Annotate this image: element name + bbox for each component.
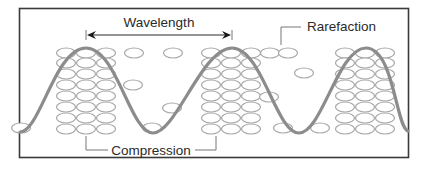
particle-ellipse	[222, 69, 241, 79]
scattered-particle-ellipse	[295, 68, 314, 78]
particle-ellipse	[376, 102, 395, 112]
particle-ellipse	[202, 102, 221, 112]
particle-ellipse	[222, 102, 241, 112]
particle-ellipse	[77, 58, 96, 68]
particle-ellipse	[202, 124, 221, 134]
particle-ellipse	[97, 91, 116, 101]
particle-ellipse	[356, 102, 375, 112]
particle-ellipse	[242, 80, 261, 90]
particle-ellipse	[77, 102, 96, 112]
wave-diagram: Wavelength Rarefaction Compression	[0, 0, 430, 180]
particle-ellipse	[57, 102, 76, 112]
particle-ellipse	[57, 113, 76, 123]
particle-ellipse	[242, 113, 261, 123]
particle-ellipse	[356, 80, 375, 90]
particle-ellipse	[242, 91, 261, 101]
particle-ellipse	[97, 113, 116, 123]
particle-ellipse	[376, 91, 395, 101]
scattered-particle-ellipse	[279, 48, 298, 58]
particle-ellipse	[77, 124, 96, 134]
particle-ellipse	[97, 102, 116, 112]
particle-ellipse	[202, 80, 221, 90]
particle-ellipse	[376, 69, 395, 79]
particle-ellipse	[336, 91, 355, 101]
particle-ellipse	[222, 58, 241, 68]
particle-ellipse	[57, 80, 76, 90]
particle-ellipse	[336, 102, 355, 112]
wave-diagram-canvas: Wavelength Rarefaction Compression	[0, 0, 430, 180]
scattered-particle-ellipse	[261, 48, 280, 58]
particle-ellipse	[77, 91, 96, 101]
particle-ellipse	[356, 69, 375, 79]
particle-ellipse	[242, 102, 261, 112]
particle-ellipse	[356, 91, 375, 101]
particle-ellipse	[202, 113, 221, 123]
particle-ellipse	[202, 91, 221, 101]
scattered-particle-ellipse	[164, 48, 183, 58]
particle-ellipse	[222, 91, 241, 101]
particle-ellipse	[57, 124, 76, 134]
particle-ellipse	[356, 58, 375, 68]
particle-ellipse	[222, 124, 241, 134]
particle-ellipse	[57, 91, 76, 101]
wavelength-label: Wavelength	[124, 15, 195, 30]
particle-ellipse	[376, 113, 395, 123]
particle-ellipse	[77, 80, 96, 90]
particle-ellipse	[242, 124, 261, 134]
particle-ellipse	[336, 124, 355, 134]
rarefaction-label: Rarefaction	[307, 19, 376, 34]
particle-ellipse	[336, 113, 355, 123]
particle-ellipse	[356, 124, 375, 134]
particle-ellipse	[97, 80, 116, 90]
particle-ellipse	[222, 80, 241, 90]
particle-ellipse	[222, 113, 241, 123]
particle-ellipse	[356, 113, 375, 123]
scattered-particle-ellipse	[125, 48, 144, 58]
particle-ellipse	[336, 80, 355, 90]
particle-ellipse	[97, 124, 116, 134]
particle-ellipse	[376, 124, 395, 134]
compression-label: Compression	[111, 143, 191, 158]
particle-ellipse	[77, 69, 96, 79]
particle-ellipse	[77, 113, 96, 123]
scattered-particle-ellipse	[124, 80, 143, 90]
